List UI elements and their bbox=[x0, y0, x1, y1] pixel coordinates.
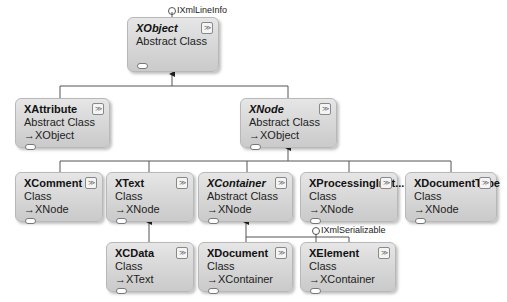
inherits-arrow-icon: → bbox=[207, 203, 218, 215]
class-xdocument[interactable]: XDocument Class →XContainer ≫ bbox=[198, 242, 293, 292]
inherits-arrow-icon: → bbox=[24, 203, 35, 215]
members-toggle-icon[interactable] bbox=[208, 288, 219, 294]
base-class: →XContainer bbox=[207, 273, 286, 286]
class-kind: Abstract Class bbox=[249, 116, 330, 129]
inherits-arrow-icon: → bbox=[115, 203, 126, 215]
base-class: →XNode bbox=[115, 203, 187, 216]
inherits-arrow-icon: → bbox=[207, 273, 218, 285]
members-toggle-icon[interactable] bbox=[415, 218, 426, 224]
members-toggle-icon[interactable] bbox=[208, 218, 219, 224]
class-xelement[interactable]: XElement Class →XContainer ≫ bbox=[300, 242, 396, 292]
class-kind: Abstract Class bbox=[207, 190, 286, 203]
members-toggle-icon[interactable] bbox=[310, 218, 321, 224]
inherits-arrow-icon: → bbox=[414, 203, 425, 215]
members-toggle-icon[interactable] bbox=[310, 288, 321, 294]
class-xattribute[interactable]: XAttribute Abstract Class →XObject ≫ bbox=[15, 98, 110, 148]
class-kind: Class bbox=[115, 190, 187, 203]
collapse-chevron-icon[interactable]: ≫ bbox=[275, 177, 287, 189]
base-class: →XNode bbox=[414, 203, 490, 216]
base-class: →XNode bbox=[24, 203, 96, 216]
class-name: XProcessingInst... bbox=[309, 177, 391, 190]
inherits-arrow-icon: → bbox=[24, 129, 35, 141]
collapse-chevron-icon[interactable]: ≫ bbox=[479, 177, 491, 189]
collapse-chevron-icon[interactable]: ≫ bbox=[176, 177, 188, 189]
collapse-chevron-icon[interactable]: ≫ bbox=[85, 177, 97, 189]
class-kind: Class bbox=[309, 260, 389, 273]
inherits-arrow-icon: → bbox=[115, 273, 126, 285]
class-xtext[interactable]: XText Class →XNode ≫ bbox=[106, 172, 194, 222]
members-toggle-icon[interactable] bbox=[25, 144, 36, 150]
class-name: XNode bbox=[249, 103, 330, 116]
class-kind: Class bbox=[115, 260, 187, 273]
class-xprocessinginstruction[interactable]: XProcessingInst... Class →XNode ≫ bbox=[300, 172, 398, 222]
members-toggle-icon[interactable] bbox=[116, 218, 127, 224]
base-class: →XContainer bbox=[309, 273, 389, 286]
class-kind: Class bbox=[207, 260, 286, 273]
base-class: →XObject bbox=[24, 129, 103, 142]
class-xobject[interactable]: XObject Abstract Class ≫ bbox=[127, 17, 219, 72]
class-xnode[interactable]: XNode Abstract Class →XObject ≫ bbox=[240, 98, 337, 148]
base-class: →XNode bbox=[309, 203, 391, 216]
collapse-chevron-icon[interactable]: ≫ bbox=[275, 247, 287, 259]
class-xcdata[interactable]: XCData Class →XText ≫ bbox=[106, 242, 194, 292]
members-toggle-icon[interactable] bbox=[116, 288, 127, 294]
interface-ixmlserializable: IXmlSerializable bbox=[312, 225, 386, 235]
class-xdocumenttype[interactable]: XDocumentType Class →XNode ≫ bbox=[405, 172, 497, 222]
collapse-chevron-icon[interactable]: ≫ bbox=[201, 22, 213, 34]
class-kind: Class bbox=[24, 190, 96, 203]
interface-lollipop-icon bbox=[312, 227, 320, 235]
class-kind: Class bbox=[414, 190, 490, 203]
base-class: →XText bbox=[115, 273, 187, 286]
collapse-chevron-icon[interactable]: ≫ bbox=[378, 247, 390, 259]
class-xcomment[interactable]: XComment Class →XNode ≫ bbox=[15, 172, 103, 222]
inherits-arrow-icon: → bbox=[309, 273, 320, 285]
collapse-chevron-icon[interactable]: ≫ bbox=[380, 177, 392, 189]
inherits-arrow-icon: → bbox=[309, 203, 320, 215]
collapse-chevron-icon[interactable]: ≫ bbox=[319, 103, 331, 115]
base-class: →XNode bbox=[207, 203, 286, 216]
class-name: XElement bbox=[309, 247, 389, 260]
collapse-chevron-icon[interactable]: ≫ bbox=[92, 103, 104, 115]
interface-lollipop-icon bbox=[168, 7, 176, 15]
members-toggle-icon[interactable] bbox=[137, 63, 148, 69]
base-class: →XObject bbox=[249, 129, 330, 142]
members-toggle-icon[interactable] bbox=[25, 218, 36, 224]
class-kind: Class bbox=[309, 190, 391, 203]
class-kind: Abstract Class bbox=[24, 116, 103, 129]
class-kind: Abstract Class bbox=[136, 35, 212, 48]
members-toggle-icon[interactable] bbox=[250, 144, 261, 150]
collapse-chevron-icon[interactable]: ≫ bbox=[176, 247, 188, 259]
class-xcontainer[interactable]: XContainer Abstract Class →XNode ≫ bbox=[198, 172, 293, 222]
inherits-arrow-icon: → bbox=[249, 129, 260, 141]
interface-ixmllineinfo: IXmlLineInfo bbox=[168, 5, 227, 15]
